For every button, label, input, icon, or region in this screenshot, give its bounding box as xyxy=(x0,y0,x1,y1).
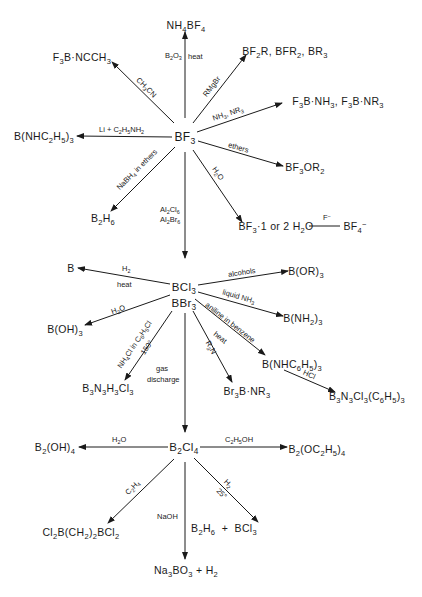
label-h2o-b2cl4: H2O xyxy=(112,435,126,444)
compound-b2-oc2h5: B2(OC2H5)4 xyxy=(288,443,345,455)
compound-bf3-h2o: BF3·1 or 2 H2O xyxy=(238,220,313,232)
label-fluoride: F− xyxy=(323,213,331,222)
compound-na3bo3: Na3BO3 + H2 xyxy=(154,564,218,576)
compound-br3b-nr3: Br3B·NR3 xyxy=(224,385,271,397)
compound-f3b-nh3: F3B·NH3, F3B·NR3 xyxy=(292,95,384,107)
compound-b2h6: B2H6 xyxy=(91,212,115,224)
label-b2o3: B2O3 xyxy=(165,51,182,60)
label-gas: gas xyxy=(156,364,168,373)
label-heat-nh4bf4: heat xyxy=(188,52,203,61)
compound-f3b-ncch3: F3B·NCCH3 xyxy=(53,51,111,63)
compound-bf4-anion: BF4− xyxy=(343,220,366,232)
label-al2cl6: Al2Cl6 xyxy=(160,205,180,214)
compound-bf2r: BF2R, BFR2, BR3 xyxy=(242,45,327,57)
compound-nh4bf4: NH4BF4 xyxy=(167,19,206,31)
compound-b2h6-bcl3: B2H6 + BCl3 xyxy=(191,522,257,534)
label-naoh: NaOH xyxy=(157,512,178,521)
compound-b-or3: B(OR)3 xyxy=(288,265,324,277)
compound-b-nhc6h5: B(NHC6H5)3 xyxy=(262,358,322,370)
compound-bbr3: BBr3 xyxy=(172,297,197,309)
compound-b-nhc2h5: B(NHC2H5)3 xyxy=(14,130,74,142)
compound-b3n3h3cl3: B3N3H3Cl3 xyxy=(82,382,134,394)
label-c2h5oh: C2H5OH xyxy=(225,435,253,444)
label-discharge: discharge xyxy=(147,375,180,384)
compound-b2cl4: B2Cl4 xyxy=(169,441,198,453)
label-h2-b: H2 xyxy=(122,264,130,273)
compound-b-nh2: B(NH2)3 xyxy=(283,312,323,324)
compound-cl2b-ch2-bcl2: Cl2B(CH2)2BCl2 xyxy=(42,526,119,538)
compound-b-oh3: B(OH)3 xyxy=(47,323,83,335)
compound-bf3or2: BF3OR2 xyxy=(285,161,324,173)
label-heat-b: heat xyxy=(117,280,132,289)
compound-b2-oh4: B2(OH)4 xyxy=(35,441,75,453)
compound-bcl3: BCl3 xyxy=(172,281,196,293)
label-li-c2h5nh2: Li + C2H5NH2 xyxy=(99,125,144,134)
compound-bf3: BF3 xyxy=(174,130,195,144)
compound-b3n3cl3: B3N3Cl3(C6H5)3 xyxy=(329,390,405,402)
compound-boron: B xyxy=(67,262,74,274)
label-al2br6: Al2Br6 xyxy=(160,215,180,224)
